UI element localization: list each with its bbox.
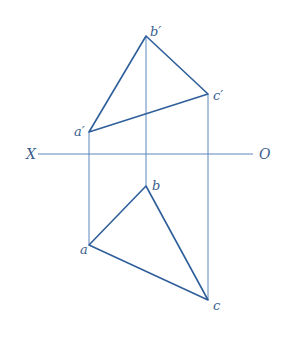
top-view-triangle <box>89 186 208 300</box>
axis-label-o: O <box>259 146 271 162</box>
front-view-triangle <box>89 36 208 132</box>
label-a-prime: a′ <box>74 124 85 139</box>
axis-label-x: X <box>25 146 37 162</box>
label-b-prime: b′ <box>150 24 161 39</box>
label-b: b <box>152 178 160 193</box>
label-c: c <box>213 298 221 313</box>
label-c-prime: c′ <box>213 88 223 103</box>
projection-diagram: X O b′ c′ a′ b a c <box>0 0 289 338</box>
projector-lines <box>89 36 208 300</box>
label-a: a <box>80 242 88 257</box>
